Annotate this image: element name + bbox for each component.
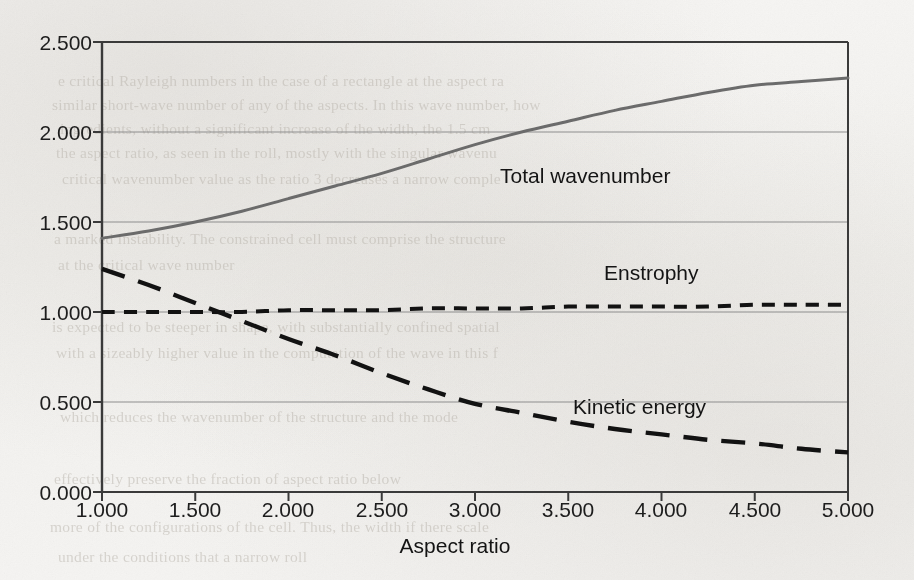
series-annotation-kinetic-energy: Kinetic energy bbox=[573, 395, 706, 419]
x-tick-label-4: 3.000 bbox=[425, 498, 525, 522]
x-tick-label-2: 2.000 bbox=[238, 498, 338, 522]
axis-frame bbox=[102, 42, 848, 492]
series-line-total-wavenumber bbox=[102, 78, 848, 238]
gridlines bbox=[102, 132, 848, 402]
y-tick-label-3: 1.500 bbox=[0, 211, 92, 235]
x-tick-label-8: 5.000 bbox=[798, 498, 898, 522]
y-axis-tick-marks bbox=[93, 42, 102, 492]
series-annotation-total-wavenumber: Total wavenumber bbox=[500, 164, 670, 188]
x-axis-title: Aspect ratio bbox=[375, 534, 535, 558]
y-tick-label-2: 1.000 bbox=[0, 301, 92, 325]
x-tick-label-0: 1.000 bbox=[52, 498, 152, 522]
series-line-kinetic-energy bbox=[102, 269, 848, 453]
y-tick-label-4: 2.000 bbox=[0, 121, 92, 145]
y-tick-label-5: 2.500 bbox=[0, 31, 92, 55]
chart-plot-area bbox=[0, 0, 914, 580]
y-tick-label-1: 0.500 bbox=[0, 391, 92, 415]
x-tick-label-5: 3.500 bbox=[518, 498, 618, 522]
x-tick-label-1: 1.500 bbox=[145, 498, 245, 522]
x-tick-label-7: 4.500 bbox=[705, 498, 805, 522]
data-series-layer bbox=[102, 78, 848, 452]
series-annotation-enstrophy: Enstrophy bbox=[604, 261, 699, 285]
chart-figure: 0.000 0.500 1.000 1.500 2.000 2.500 1.00… bbox=[0, 0, 914, 580]
x-tick-label-6: 4.000 bbox=[611, 498, 711, 522]
x-tick-label-3: 2.500 bbox=[332, 498, 432, 522]
